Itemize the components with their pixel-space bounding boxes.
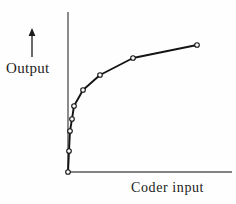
- chart-canvas: [0, 0, 236, 204]
- data-point: [131, 56, 136, 61]
- x-axis-label: Coder input: [131, 180, 204, 196]
- data-curve: [68, 45, 197, 172]
- data-point: [70, 117, 75, 122]
- data-point: [72, 104, 77, 109]
- data-point-markers: [66, 43, 200, 175]
- up-arrow-icon: [29, 28, 36, 57]
- data-point: [81, 88, 86, 93]
- y-axis-label: Output: [6, 60, 49, 77]
- data-point: [66, 170, 71, 175]
- data-point: [195, 43, 200, 48]
- data-point: [68, 129, 73, 134]
- data-point: [67, 149, 72, 154]
- data-point: [98, 73, 103, 78]
- figure-container: Output Coder input: [0, 0, 236, 204]
